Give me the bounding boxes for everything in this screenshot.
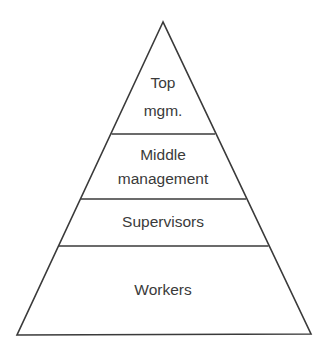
level-label: Supervisors: [122, 213, 204, 230]
level-workers: Workers: [134, 281, 192, 298]
level-label: Workers: [134, 281, 192, 298]
level-label: Middle: [140, 146, 186, 163]
level-label: management: [118, 170, 209, 187]
level-supervisors: Supervisors: [122, 213, 204, 230]
level-top-management: Top mgm.: [144, 74, 183, 119]
pyramid-diagram: Top mgm. Middle management Supervisors W…: [0, 0, 329, 363]
level-middle-management: Middle management: [118, 146, 209, 187]
level-label: Top: [151, 74, 176, 91]
level-label: mgm.: [144, 102, 183, 119]
